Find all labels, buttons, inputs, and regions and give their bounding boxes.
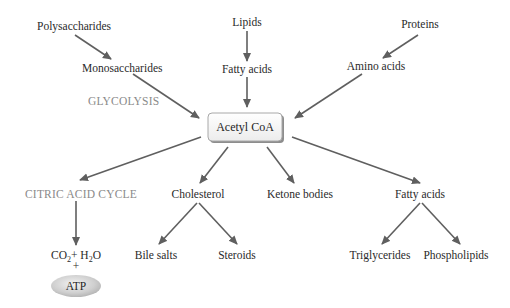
- label-fatty-acids-in: Fatty acids: [222, 63, 273, 76]
- label-polysaccharides: Polysaccharides: [37, 20, 112, 33]
- label-proteins: Proteins: [401, 18, 439, 30]
- label-monosaccharides: Monosaccharides: [82, 62, 163, 74]
- metabolism-diagram: Polysaccharides Monosaccharides GLYCOLYS…: [0, 0, 510, 308]
- label-amino-acids: Amino acids: [347, 60, 406, 72]
- acetyl-coa-label: Acetyl CoA: [216, 120, 274, 134]
- label-phospholipids: Phospholipids: [423, 249, 489, 262]
- label-plus: +: [73, 260, 80, 272]
- label-citric-acid-cycle: CITRIC ACID CYCLE: [25, 188, 137, 200]
- arrow-acetyl-coa-to-fatty-acids: [292, 137, 420, 183]
- arrow-amino-acids-to-acetyl-coa: [295, 74, 362, 118]
- arrow-polysaccharides-to-monosaccharides: [75, 35, 111, 59]
- label-fatty-acids-out: Fatty acids: [395, 188, 446, 201]
- label-cholesterol: Cholesterol: [171, 188, 224, 200]
- arrow-cholesterol-to-steroids: [199, 203, 237, 244]
- atp-node: ATP: [51, 275, 101, 297]
- label-glycolysis: GLYCOLYSIS: [88, 95, 159, 107]
- arrow-acetyl-coa-to-cholesterol: [200, 147, 228, 183]
- arrow-fatty-acids-to-phospholipids: [422, 203, 460, 244]
- label-ketone-bodies: Ketone bodies: [267, 188, 334, 200]
- label-triglycerides: Triglycerides: [350, 249, 411, 262]
- acetyl-coa-node: Acetyl CoA: [208, 113, 284, 143]
- arrow-cholesterol-to-bile-salts: [159, 203, 197, 244]
- atp-label: ATP: [66, 280, 86, 292]
- label-steroids: Steroids: [218, 249, 256, 261]
- label-lipids: Lipids: [232, 16, 262, 29]
- arrow-fatty-acids-to-triglycerides: [382, 203, 420, 244]
- arrow-acetyl-coa-to-citric-acid-cycle: [80, 137, 201, 180]
- arrow-acetyl-coa-to-ketone-bodies: [267, 147, 294, 183]
- label-bile-salts: Bile salts: [135, 249, 178, 261]
- arrow-proteins-to-amino-acids: [383, 35, 418, 58]
